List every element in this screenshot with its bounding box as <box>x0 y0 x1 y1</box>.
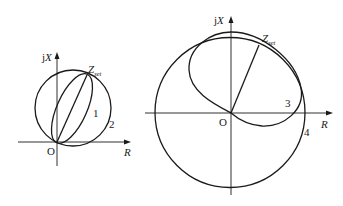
right-zset-segment <box>231 45 259 113</box>
left-zset-segment <box>57 75 87 142</box>
left-r-label: R <box>123 146 131 158</box>
left-r-axis-arrow-icon <box>124 140 131 145</box>
left-jx-axis-arrow-icon <box>55 52 60 59</box>
left-zset-label: Zset <box>88 63 102 77</box>
right-zset-label: Zset <box>262 32 276 46</box>
left-jx-label: jX <box>41 51 53 63</box>
right-origin-label: O <box>219 116 227 128</box>
right-r-axis-arrow-icon <box>326 111 333 116</box>
right-r-label: R <box>320 118 328 130</box>
right-jx-axis-arrow-icon <box>229 16 234 23</box>
left-curve-2-label: 2 <box>109 118 115 130</box>
right-jx-label: jX <box>213 14 225 26</box>
left-origin-label: O <box>47 145 55 157</box>
left-diagram: jX R O Zset 1 2 <box>18 51 131 166</box>
right-curve-4-label: 4 <box>304 126 310 138</box>
right-diagram: jX R O Zset 3 4 <box>145 14 333 195</box>
right-curve-3-label: 3 <box>285 97 291 109</box>
impedance-diagrams: jX R O Zset 1 2 jX R O Zset 3 4 <box>0 0 343 206</box>
left-curve-1-label: 1 <box>93 107 99 119</box>
